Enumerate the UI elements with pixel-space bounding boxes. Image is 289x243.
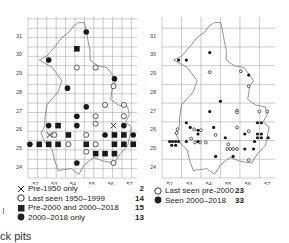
legend-label: Seen 2000–2018 (165, 196, 235, 206)
y-tick-label: 24 (16, 164, 22, 170)
series-filled-circle (27, 29, 136, 166)
legend-label: 2000–2018 only (28, 213, 135, 223)
legend-row-seen-2000-2018: Seen 2000–2018 33 (153, 196, 263, 206)
y-tick-label: 28 (16, 89, 22, 95)
page-edge-mark (0, 208, 4, 214)
y-tick-label: 31 (16, 33, 22, 39)
y-tick-label: 27 (150, 108, 156, 114)
right-distribution-map: 2425262728293031525354555657 (145, 0, 289, 185)
y-tick-label: 25 (16, 145, 22, 151)
legend-row-pre-2000-and-2000-2018: Pre-2000 and 2000–2018 15 (16, 203, 144, 213)
y-tick-label: 27 (16, 108, 22, 114)
legend-count: 23 (235, 186, 263, 196)
legend-row-pre-1950: Pre-1950 only 2 (16, 184, 144, 194)
x-tick-label: 56 (245, 181, 251, 185)
filled-circle-icon (153, 196, 162, 204)
legend-row-2000-2018-only: 2000–2018 only 13 (16, 213, 144, 223)
legend-row-last-seen-1950-1999: Last seen 1950–1999 14 (16, 194, 144, 204)
right-map-legend: Last seen pre-2000 23 Seen 2000–2018 33 (153, 186, 263, 205)
legend-count: 15 (135, 203, 144, 213)
open-circle-icon (153, 187, 162, 195)
legend-count: 14 (135, 194, 144, 204)
legend-label: Pre-1950 only (28, 184, 140, 194)
y-tick-label: 30 (16, 51, 22, 57)
x-tick-label: 57 (264, 181, 270, 185)
map-grid (28, 17, 137, 178)
left-map-legend: Pre-1950 only 2 Last seen 1950–1999 14 P… (16, 184, 144, 222)
figure-caption-fragment: rick pits (0, 230, 31, 242)
legend-label: Last seen 1950–1999 (28, 194, 135, 204)
county-boundary (174, 23, 269, 175)
series-filled-square (36, 46, 136, 156)
left-distribution-map: 2425262728293031525354555657 (0, 0, 145, 185)
x-tick-label: 55 (225, 181, 231, 185)
y-tick-label: 28 (150, 89, 156, 95)
legend-count: 33 (235, 196, 263, 206)
legend-count: 2 (140, 184, 144, 194)
left-map-plot: 2425262728293031525354555657 (0, 0, 145, 185)
y-tick-label: 29 (16, 70, 22, 76)
x-tick-label: 54 (206, 181, 212, 185)
legend-row-last-seen-pre-2000: Last seen pre-2000 23 (153, 186, 263, 196)
legend-count: 13 (135, 213, 144, 223)
filled-circle-icon (16, 213, 25, 221)
open-circle-icon (16, 194, 25, 202)
y-tick-label: 26 (16, 126, 22, 132)
y-tick-label: 30 (150, 51, 156, 57)
x-mark-icon (16, 185, 25, 193)
legend-label: Last seen pre-2000 (165, 186, 235, 196)
x-tick-label: 52 (167, 181, 173, 185)
y-tick-label: 26 (150, 126, 156, 132)
y-tick-label: 25 (150, 145, 156, 151)
x-tick-label: 53 (186, 181, 192, 185)
map-grid (162, 17, 275, 178)
y-tick-label: 31 (150, 33, 156, 39)
y-tick-label: 24 (150, 164, 156, 170)
legend-label: Pre-2000 and 2000–2018 (28, 203, 135, 213)
right-map-plot: 2425262728293031525354555657 (145, 0, 289, 185)
y-tick-label: 29 (150, 70, 156, 76)
filled-square-icon (16, 204, 25, 212)
